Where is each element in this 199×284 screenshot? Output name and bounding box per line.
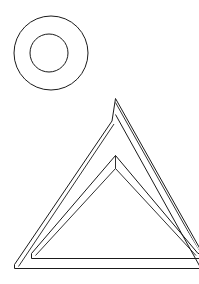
ring-shape <box>14 16 88 90</box>
artwork-svg <box>0 0 199 284</box>
ring-inner-circle <box>30 34 68 72</box>
artwork-canvas: Line Art Coloring Page Two outlined blac… <box>0 0 199 284</box>
